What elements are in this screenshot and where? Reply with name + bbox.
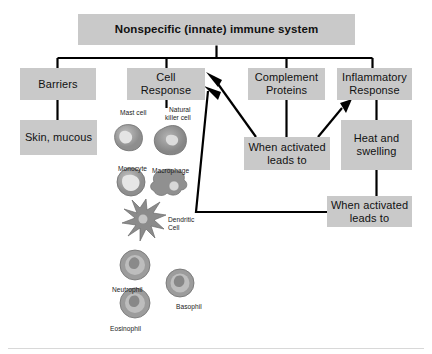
edge-when1-to-inflammatory bbox=[318, 108, 342, 137]
basophil-icon bbox=[166, 269, 194, 297]
node-inflammatory-response[interactable]: Inflammatory Response bbox=[337, 68, 412, 100]
cell-label-eosinophil: Eosinophil bbox=[110, 325, 141, 332]
node-cell-response-label-line2: Response bbox=[141, 84, 191, 97]
node-when-activated-2[interactable]: When activated leads to bbox=[327, 196, 412, 227]
node-inflammatory-response-label-line2: Response bbox=[349, 84, 399, 97]
arrowhead-inflammatory bbox=[340, 99, 352, 113]
node-when-activated-2-line1: When activated bbox=[331, 199, 408, 212]
mast-cell-icon bbox=[115, 125, 143, 151]
node-complement-proteins[interactable]: Complement Proteins bbox=[248, 68, 325, 100]
cell-label-macrophage: Macrophage bbox=[152, 167, 189, 174]
node-when-activated-1-line1: When activated bbox=[248, 141, 325, 154]
node-root-label: Nonspecific (innate) immune system bbox=[115, 23, 318, 37]
neutrophil-icon bbox=[120, 250, 150, 280]
cell-label-natural-killer-cell-line2: killer cell bbox=[165, 114, 191, 121]
node-heat-and-swelling-line1: Heat and bbox=[354, 132, 399, 145]
arrowhead-cellresponse-lower bbox=[204, 86, 221, 100]
immune-system-diagram: Nonspecific (innate) immune system Barri… bbox=[0, 0, 432, 354]
node-complement-proteins-label-line2: Proteins bbox=[266, 84, 307, 97]
node-barriers-label: Barriers bbox=[38, 78, 77, 91]
node-barriers[interactable]: Barriers bbox=[20, 68, 96, 100]
node-cell-response[interactable]: Cell Response bbox=[127, 68, 205, 100]
cell-label-neutrophil: Neutrophil bbox=[112, 286, 143, 293]
monocyte-icon bbox=[117, 168, 145, 196]
cell-label-monocyte: Monocyte bbox=[118, 165, 147, 172]
node-heat-and-swelling-line2: swelling bbox=[357, 145, 397, 158]
arrowhead-cellresponse-upper bbox=[206, 72, 222, 87]
cell-label-dendritic-cell-line2: Cell bbox=[168, 224, 180, 231]
node-when-activated-1-line2: leads to bbox=[267, 154, 306, 167]
cell-gallery-art bbox=[110, 105, 220, 335]
node-inflammatory-response-label-line1: Inflammatory bbox=[342, 71, 407, 84]
cell-label-natural-killer-cell-line1: Natural bbox=[169, 106, 191, 113]
cell-label-mast-cell: Mast cell bbox=[120, 109, 146, 116]
node-root[interactable]: Nonspecific (innate) immune system bbox=[78, 14, 355, 45]
cell-label-basophil: Basophil bbox=[176, 303, 202, 310]
node-skin-mucous[interactable]: Skin, mucous bbox=[20, 120, 97, 155]
node-heat-and-swelling[interactable]: Heat and swelling bbox=[341, 120, 412, 170]
natural-killer-cell-icon bbox=[154, 126, 186, 155]
dendritic-cell-icon bbox=[122, 199, 166, 241]
frame-bottom bbox=[8, 348, 424, 349]
node-when-activated-1[interactable]: When activated leads to bbox=[244, 137, 330, 170]
node-skin-mucous-label: Skin, mucous bbox=[25, 131, 92, 144]
node-complement-proteins-label-line1: Complement bbox=[255, 71, 318, 84]
node-when-activated-2-line2: leads to bbox=[350, 212, 389, 225]
cell-label-dendritic-cell-line1: Dendritic bbox=[168, 216, 194, 223]
node-cell-response-label-line1: Cell bbox=[156, 71, 175, 84]
cell-gallery bbox=[110, 105, 220, 335]
